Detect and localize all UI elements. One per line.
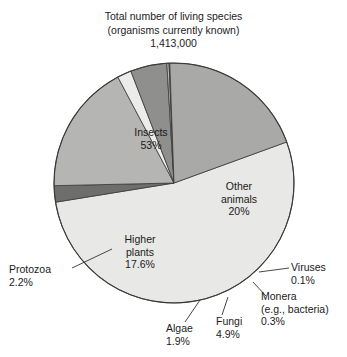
slice-label-monera-pct: 0.3%	[261, 315, 347, 328]
slice-label-insects: Insects 53%	[112, 126, 190, 151]
leader-line-fungi	[222, 297, 228, 315]
slice-label-other-animals-line1: Other	[203, 180, 275, 193]
slice-label-algae: Algae 1.9%	[166, 322, 216, 347]
slice-label-higher-plants-pct: 17.6%	[103, 258, 177, 271]
leader-line-viruses	[259, 268, 289, 272]
slice-label-higher-plants-line1: Higher	[103, 233, 177, 246]
slice-label-protozoa-pct: 2.2%	[9, 276, 89, 289]
slice-label-algae-pct: 1.9%	[166, 335, 216, 348]
slice-label-higher-plants-line2: plants	[103, 246, 177, 259]
slice-label-monera-line2: (e.g., bacteria)	[261, 303, 347, 316]
slice-label-higher-plants: Higher plants 17.6%	[103, 233, 177, 271]
slice-label-protozoa-name: Protozoa	[9, 263, 89, 276]
slice-label-fungi: Fungi 4.9%	[216, 315, 264, 340]
slice-label-protozoa: Protozoa 2.2%	[9, 263, 89, 288]
slice-label-viruses-pct: 0.1%	[291, 274, 347, 287]
slice-label-viruses-name: Viruses	[291, 261, 347, 274]
slice-label-insects-name: Insects	[112, 126, 190, 139]
slice-label-viruses: Viruses 0.1%	[291, 261, 347, 286]
slice-label-insects-pct: 53%	[112, 139, 190, 152]
slice-label-algae-name: Algae	[166, 322, 216, 335]
slice-label-other-animals-line2: animals	[203, 193, 275, 206]
leader-line-algae	[185, 300, 200, 322]
slice-label-other-animals-pct: 20%	[203, 205, 275, 218]
pie-chart-figure: Total number of living species (organism…	[0, 0, 347, 357]
slice-label-monera-line1: Monera	[261, 290, 347, 303]
slice-label-fungi-name: Fungi	[216, 315, 264, 328]
slice-label-fungi-pct: 4.9%	[216, 328, 264, 341]
slice-label-other-animals: Other animals 20%	[203, 180, 275, 218]
slice-label-monera: Monera (e.g., bacteria) 0.3%	[261, 290, 347, 328]
